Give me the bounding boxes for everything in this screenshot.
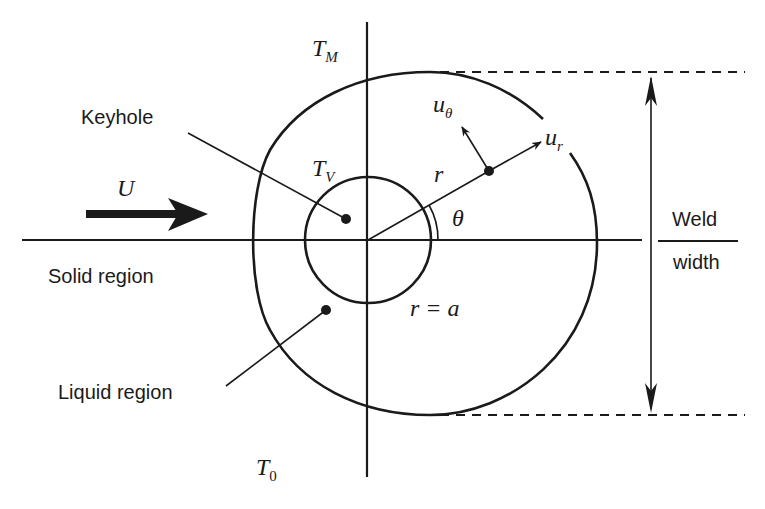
angle-label: θ (452, 206, 464, 230)
weld-width-top-label: Weld (672, 209, 717, 229)
liquid-region-label: Liquid region (58, 382, 173, 402)
liquid-leader (226, 310, 326, 386)
keyhole-leader-dot (341, 214, 351, 224)
weld-width-bottom-label: width (673, 252, 720, 272)
liquid-leader-dot (321, 305, 331, 315)
diagram-canvas (0, 0, 765, 509)
vapor-temperature-label: TV (312, 156, 335, 180)
u-theta-arrow (462, 127, 489, 171)
solid-region-label: Solid region (48, 266, 154, 286)
velocity-label: U (117, 176, 134, 200)
keyhole-radius-label: r = a (410, 296, 460, 320)
field-point-dot (484, 166, 494, 176)
melt-temperature-label: TM (312, 36, 338, 60)
ambient-temperature-label: T0 (256, 455, 277, 479)
u-r-arrow (489, 142, 541, 171)
keyhole-label: Keyhole (81, 107, 153, 127)
radius-label: r (434, 162, 443, 186)
u-r-label: ur (545, 125, 563, 149)
u-theta-label: uθ (433, 92, 452, 116)
velocity-arrow (86, 198, 208, 231)
